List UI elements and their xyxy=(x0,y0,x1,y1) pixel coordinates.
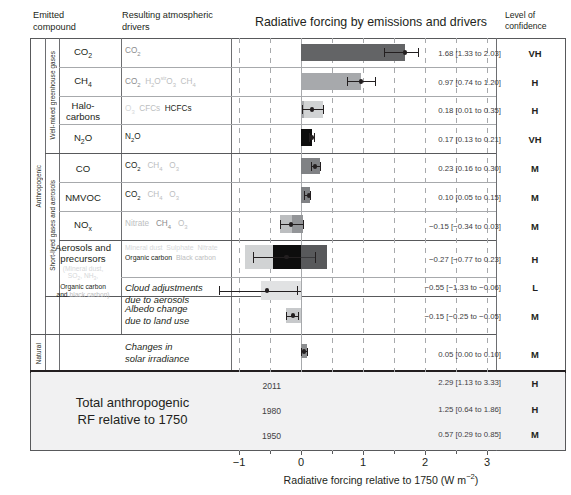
confidence-halocarbons: H xyxy=(505,97,565,124)
total-title-line1: Total anthropogenic xyxy=(76,395,189,410)
axis-label-0: 0 xyxy=(286,456,316,468)
drivers-aerosols-line1: Mineral dust Sulphate Nitrate xyxy=(125,243,230,253)
errorbar-aerosols-right xyxy=(301,257,316,258)
confidence-nox: M xyxy=(505,212,565,240)
confidence-total-1950: M xyxy=(505,423,565,446)
value-nmvoc: 0.10 [0.05 to 0.15] xyxy=(396,183,501,211)
errorbar-cap-high-albedo xyxy=(298,312,299,320)
value-co: 0.23 [0.16 to 0.30] xyxy=(396,154,501,182)
value-aerosols: −0.27 [−0.77 to 0.23] xyxy=(396,241,501,277)
column-header-emitted-compound: Emitted compound xyxy=(33,10,121,36)
drivers-solar-line2: solar irradiance xyxy=(125,353,230,365)
drivers-aerosols: Mineral dust Sulphate Nitrate Organic ca… xyxy=(122,243,230,276)
value-co2: 1.68 [1.33 to 2.03] xyxy=(396,39,501,67)
emitted-aerosols-sub2: SO2, NH3, xyxy=(46,272,120,283)
confidence-nmvoc: M xyxy=(505,183,565,211)
value-halocarbons: 0.18 [0.01 to 0.35] xyxy=(396,97,501,124)
axis-label--1: −1 xyxy=(224,456,254,468)
errorbar-cap-high-co xyxy=(320,162,321,171)
axis-tick-2.0 xyxy=(425,451,426,455)
header-drivers-line2: drivers xyxy=(122,22,232,34)
marker-cloud xyxy=(265,288,269,292)
column-header-atmospheric-drivers: Resulting atmospheric drivers xyxy=(122,10,232,36)
header-confidence-line1: Level of xyxy=(505,10,567,21)
value-n2o: 0.17 [0.13 to 0.21] xyxy=(396,125,501,153)
confidence-total-1980: H xyxy=(505,398,565,421)
errorbar-cap-low-co2 xyxy=(384,48,385,57)
marker-solar xyxy=(302,349,306,353)
axis-tick-1.0 xyxy=(363,451,364,455)
axis-tick-0.5 xyxy=(332,451,333,454)
emitted-ch4: CH4 xyxy=(46,68,120,96)
total-year-1950: 1950 xyxy=(235,426,281,446)
chart-title: Radiative forcing by emissions and drive… xyxy=(232,13,510,31)
axis-tick-0 xyxy=(301,451,302,455)
drivers-nmvoc: CO2 CH4 O3 xyxy=(122,183,230,211)
axis-label-2: 2 xyxy=(410,456,440,468)
total-anthropogenic-title: Total anthropogenic RF relative to 1750 xyxy=(40,378,225,444)
errorbar-cloud xyxy=(219,291,302,292)
errorbar-cap-low-ch4 xyxy=(347,77,348,86)
drivers-albedo-line1: Albedo change xyxy=(125,303,230,315)
errorbar-cap-high-aerosols xyxy=(315,252,316,263)
marker-nmvoc xyxy=(307,193,311,197)
total-year-2011: 2011 xyxy=(235,376,281,396)
confidence-total-2011: H xyxy=(505,371,565,395)
drivers-cloud-adjustments: Cloud adjustments due to aerosols xyxy=(122,282,230,305)
errorbar-cap-low-albedo xyxy=(286,312,287,320)
drivers-nox: Nitrate CH4 O3 xyxy=(122,212,230,240)
marker-ch4 xyxy=(359,79,363,83)
errorbar-cap-high-solar xyxy=(307,348,308,356)
errorbar-cap-low-nox xyxy=(280,220,281,229)
value-ch4: 0.97 [0.74 to 1.20] xyxy=(396,68,501,96)
errorbar-cap-low-aerosols xyxy=(253,252,254,263)
confidence-co: M xyxy=(505,154,565,182)
confidence-solar: M xyxy=(505,338,565,370)
errorbar-cap-low-co xyxy=(311,162,312,171)
axis-tick-1.5 xyxy=(394,451,395,454)
errorbar-cap-high-cloud xyxy=(297,286,298,295)
value-cloud: −0.55 [−1.33 to −0.06] xyxy=(396,278,501,296)
emitted-aerosols-sub3: Organic carbon xyxy=(46,283,120,291)
header-emitted-line2: compound xyxy=(33,22,121,34)
confidence-n2o: VH xyxy=(505,125,565,153)
drivers-co: CO2 CH4 O3 xyxy=(122,154,230,182)
axis-tick-3.0 xyxy=(487,451,488,455)
axis-tick--1.0 xyxy=(239,451,240,455)
emitted-aerosols-and-precursors: Aerosols and precursors (Mineral dust, S… xyxy=(46,242,120,295)
header-confidence-line2: confidence xyxy=(505,21,567,32)
value-total-1980: 1.25 [0.64 to 1.86] xyxy=(396,398,501,421)
drivers-albedo-line2: due to land use xyxy=(125,315,230,327)
drivers-solar-line1: Changes in xyxy=(125,341,230,353)
emitted-co: CO xyxy=(46,154,120,182)
total-title-line2: RF relative to 1750 xyxy=(78,412,188,427)
axis-tick-2.5 xyxy=(456,451,457,454)
column-header-level-of-confidence: Level of confidence xyxy=(505,10,567,36)
value-nox: −0.15 [−0.34 to 0.03] xyxy=(396,212,501,240)
emitted-co2: CO2 xyxy=(46,39,120,67)
group-label-natural: Natural xyxy=(31,335,45,372)
confidence-albedo: M xyxy=(505,300,565,333)
errorbar-cap-high-ch4 xyxy=(375,77,376,86)
emitted-aerosols-line1: Aerosols and xyxy=(46,242,120,253)
emitted-aerosols-sub4: and black carbon) xyxy=(46,291,120,299)
radiative-forcing-figure: Emitted compound Resulting atmospheric d… xyxy=(0,0,571,495)
marker-halocarbons xyxy=(310,107,314,111)
value-total-2011: 2.29 [1.13 to 3.33] xyxy=(396,371,501,393)
errorbar-cap-low-cloud xyxy=(219,286,220,295)
emitted-n2o: N2O xyxy=(46,125,120,153)
emitted-nox: NOx xyxy=(46,212,120,240)
axis-title-x: Radiative forcing relative to 1750 (W m−… xyxy=(231,472,531,486)
value-solar: 0.05 [0.00 to 0.10] xyxy=(396,338,501,370)
marker-aerosols xyxy=(284,255,288,259)
confidence-co2: VH xyxy=(505,39,565,67)
errorbar-cap-low-halocarbons xyxy=(302,105,303,114)
total-year-1980: 1980 xyxy=(235,401,281,421)
emitted-nmvoc: NMVOC xyxy=(46,183,120,211)
axis-label-3: 3 xyxy=(472,456,502,468)
drivers-co2: CO2 xyxy=(122,39,230,67)
confidence-ch4: H xyxy=(505,68,565,96)
group-label-anthropogenic: Anthropogenic xyxy=(31,38,45,334)
confidence-aerosols: H xyxy=(505,241,565,277)
errorbar-aerosols xyxy=(253,257,301,258)
